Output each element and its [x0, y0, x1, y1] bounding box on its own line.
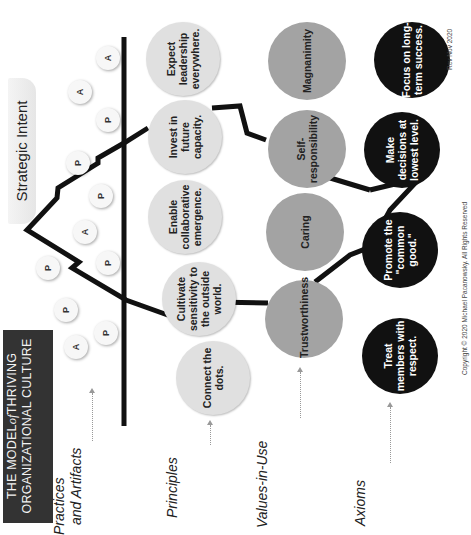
- practice-marker: P: [66, 151, 90, 175]
- axiom-circle: Focus on long- term success.: [374, 22, 450, 98]
- practice-marker: P: [94, 321, 118, 345]
- marker-label: P: [61, 307, 71, 313]
- principle-circle: Connect the dots.: [176, 341, 250, 415]
- row-label-principles: Principles: [164, 438, 180, 518]
- copyright-text: Copyright © 2020 Michael Pacanowsky. All…: [461, 155, 471, 375]
- axiom-circle: Treat members with respect.: [362, 318, 438, 394]
- marker-label: A: [80, 229, 90, 236]
- row-label-axioms: Axioms: [352, 466, 368, 526]
- practice-marker: P: [96, 108, 120, 132]
- practice-marker: P: [89, 184, 113, 208]
- principle-circle: Enable collaborative emergence.: [148, 180, 222, 254]
- practice-marker: P: [36, 256, 60, 280]
- principle-circle: Cultivate sensitivity to the outside wor…: [162, 262, 236, 336]
- practice-marker: P: [54, 298, 78, 322]
- principles-arrow: [210, 425, 212, 445]
- marker-label: A: [75, 89, 85, 96]
- revision-text: Rev Nov 2020: [446, 20, 456, 70]
- artifact-marker: A: [64, 335, 88, 359]
- marker-label: A: [103, 55, 113, 62]
- principle-circle: Invest in future capacity.: [148, 100, 222, 174]
- row-label-values: Values-in-Use: [254, 432, 270, 528]
- values-arrow: [300, 372, 302, 418]
- value-circle: Self- responsibility: [268, 110, 346, 188]
- marker-label: P: [73, 160, 83, 166]
- marker-label: P: [43, 265, 53, 271]
- marker-label: P: [103, 260, 113, 266]
- row-label-practices: Practices and Artifacts: [51, 455, 85, 535]
- value-circle: Magnanimity: [268, 22, 346, 100]
- artifact-marker: A: [68, 80, 92, 104]
- marker-label: P: [103, 117, 113, 123]
- value-circle: Caring: [266, 193, 344, 271]
- axiom-circle: Promote the "common good.": [362, 212, 438, 288]
- artifact-marker: A: [96, 46, 120, 70]
- marker-label: P: [101, 330, 111, 336]
- principle-circle: Expect leadership everywhere.: [146, 22, 220, 96]
- axioms-arrow: [390, 407, 392, 463]
- marker-label: P: [96, 193, 106, 199]
- marker-label: A: [71, 344, 81, 351]
- artifact-marker: A: [73, 220, 97, 244]
- practices-arrow: [92, 393, 94, 441]
- value-circle: Trustworthiness: [265, 280, 343, 358]
- axiom-circle: Make decisions at lowest level.: [364, 112, 440, 188]
- practice-marker: P: [96, 251, 120, 275]
